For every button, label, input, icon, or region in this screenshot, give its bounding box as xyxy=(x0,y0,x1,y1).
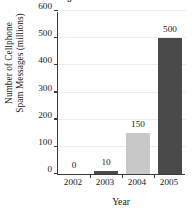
bar-2004 xyxy=(126,133,150,174)
y-axis-tick xyxy=(54,37,58,38)
y-axis-tick-label: 0 xyxy=(20,165,52,174)
y-axis-tick-label: 600 xyxy=(20,2,52,11)
bar-2003 xyxy=(94,171,118,174)
y-axis-tick xyxy=(54,10,58,11)
y-axis-tick-label: 100 xyxy=(20,138,52,147)
y-axis-tick xyxy=(54,118,58,119)
y-axis-tick xyxy=(54,64,58,65)
bar-chart-figure: Messages in the United States Number of … xyxy=(0,0,192,215)
gridline xyxy=(58,10,186,11)
y-axis-tick-label: 300 xyxy=(20,84,52,93)
bar-2005 xyxy=(158,38,182,174)
y-axis-tick-label: 200 xyxy=(20,111,52,120)
y-axis-tick-label: 500 xyxy=(20,29,52,38)
bar-value-label-2003: 10 xyxy=(82,158,130,167)
y-axis-title-line-1: Number of Cellphone xyxy=(4,0,15,136)
plot-area: 0100200300400500600010150500 xyxy=(57,12,185,175)
bar-value-label-2004: 150 xyxy=(114,120,162,129)
y-axis-tick xyxy=(54,146,58,147)
y-axis-tick-label: 400 xyxy=(20,56,52,65)
x-axis-tick-label-2005: 2005 xyxy=(145,178,192,187)
y-axis-tick xyxy=(54,173,58,174)
bar-value-label-2005: 500 xyxy=(146,25,192,34)
y-axis-tick xyxy=(54,91,58,92)
x-axis-title: Year xyxy=(57,196,185,207)
